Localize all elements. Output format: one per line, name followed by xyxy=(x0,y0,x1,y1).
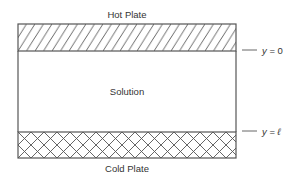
plates-diagram: Hot Plate Solution Cold Plate y = 0 y = … xyxy=(0,0,303,179)
cold-plate xyxy=(18,132,236,158)
svg-text:y = 0: y = 0 xyxy=(261,45,283,56)
hot-plate xyxy=(18,24,236,51)
svg-text:y = ℓ: y = ℓ xyxy=(261,126,282,137)
cold-plate-label: Cold Plate xyxy=(105,163,149,174)
hot-plate-label: Hot Plate xyxy=(107,9,146,20)
solution-label: Solution xyxy=(110,86,144,97)
marker-y-zero: y = 0 xyxy=(242,45,283,56)
marker-y-ell: y = ℓ xyxy=(242,126,282,137)
